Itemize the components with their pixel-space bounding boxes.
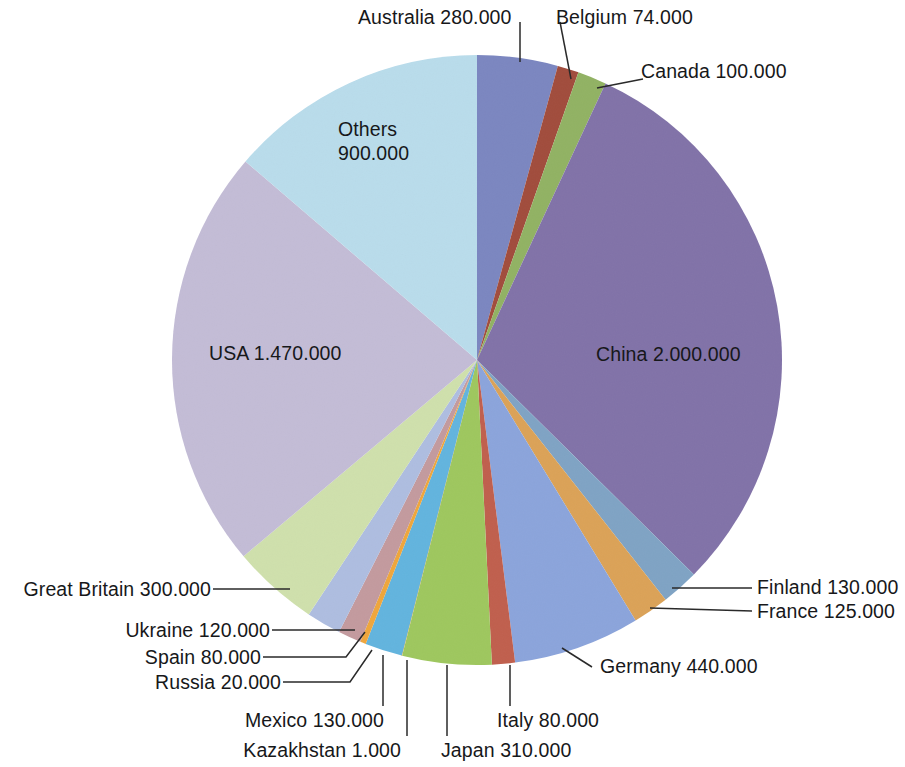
label-kazakhstan: Kazakhstan 1.000 [41, 739, 401, 762]
label-others-name: Others [338, 118, 397, 141]
label-australia: Australia 280.000 [358, 6, 511, 29]
label-great-britain: Great Britain 300.000 [0, 578, 211, 601]
label-ukraine: Ukraine 120.000 [0, 619, 270, 642]
label-usa: USA 1.470.000 [209, 342, 342, 365]
label-canada: Canada 100.000 [641, 60, 787, 83]
label-france: France 125.000 [757, 600, 895, 623]
label-finland: Finland 130.000 [757, 576, 898, 599]
label-russia: Russia 20.000 [0, 671, 281, 694]
leader-line-france [650, 608, 752, 611]
pie-chart-figure: Australia 280.000 Belgium 74.000 Canada … [0, 0, 905, 767]
label-germany: Germany 440.000 [600, 655, 758, 678]
label-spain: Spain 80.000 [0, 646, 261, 669]
label-mexico: Mexico 130.000 [41, 709, 384, 732]
label-japan: Japan 310.000 [441, 739, 571, 762]
leader-line-germany [562, 648, 592, 667]
leader-line-russia [283, 650, 372, 682]
label-belgium: Belgium 74.000 [556, 6, 693, 29]
label-others-value: 900.000 [338, 142, 409, 165]
label-italy: Italy 80.000 [497, 709, 599, 732]
label-china: China 2.000.000 [596, 343, 741, 366]
